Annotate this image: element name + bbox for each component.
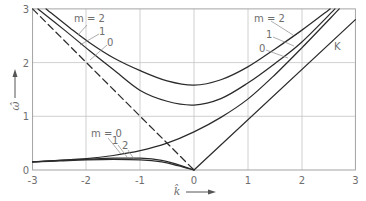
label-ll-m1: 1 bbox=[112, 135, 118, 146]
dispersion-chart: m = 2 1 0 m = 2 1 0 K m = 0 1 2 -3 -2 -1… bbox=[0, 0, 366, 201]
curve-k bbox=[194, 20, 355, 170]
y-tick-labels: 0 1 2 3 bbox=[23, 4, 29, 176]
curve-labels: m = 2 1 0 m = 2 1 0 K m = 0 1 2 bbox=[74, 13, 341, 151]
y-tick: 1 bbox=[23, 111, 29, 122]
x-tick-labels: -3 -2 -1 0 1 2 3 bbox=[28, 175, 359, 186]
x-tick: -3 bbox=[28, 175, 38, 186]
label-ul-m0: 0 bbox=[107, 37, 113, 48]
x-tick: 2 bbox=[299, 175, 305, 186]
label-ll-m2: 2 bbox=[122, 140, 128, 151]
x-tick: -1 bbox=[135, 175, 145, 186]
label-ur-m2: m = 2 bbox=[254, 13, 285, 24]
label-ur-k: K bbox=[334, 41, 341, 52]
label-ur-m0: 0 bbox=[259, 43, 265, 54]
y-tick: 2 bbox=[23, 58, 29, 69]
y-tick: 0 bbox=[23, 165, 29, 176]
y-axis-title: ω̂ bbox=[9, 101, 22, 110]
x-arrowhead-icon bbox=[208, 190, 216, 195]
label-ul-m1: 1 bbox=[99, 26, 105, 37]
label-ur-m1: 1 bbox=[266, 29, 272, 40]
y-axis-label: ω̂ bbox=[9, 69, 22, 110]
y-tick: 3 bbox=[23, 4, 29, 15]
curve-m-2-lower-branch bbox=[33, 159, 194, 170]
x-tick: 0 bbox=[191, 175, 197, 186]
x-tick: 1 bbox=[245, 175, 251, 186]
curve-m-0 bbox=[33, 9, 340, 162]
x-tick: 3 bbox=[352, 175, 358, 186]
label-ul-m2: m = 2 bbox=[74, 13, 105, 24]
leader-ur-m0 bbox=[266, 50, 288, 58]
x-axis-title: k̂ bbox=[174, 184, 181, 198]
y-arrowhead-icon bbox=[13, 69, 18, 77]
x-tick: -2 bbox=[81, 175, 91, 186]
grid-lines bbox=[32, 9, 355, 170]
